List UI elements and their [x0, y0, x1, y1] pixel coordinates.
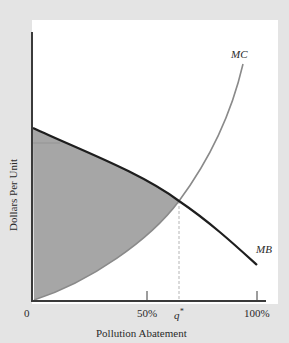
mc-curve-label: MC: [231, 48, 248, 60]
y-axis-title: Dollars Per Unit: [7, 159, 19, 231]
net-benefit-shaded-area: [33, 128, 179, 300]
x-tick-label-qstar: q*: [174, 307, 184, 321]
x-tick-label-100: 100%: [244, 307, 270, 319]
x-tick-label-50: 50%: [137, 307, 157, 319]
x-axis-title: Pollution Abatement: [96, 327, 187, 339]
x-tick-label-0: 0: [24, 307, 30, 319]
mb-curve-label: MB: [256, 243, 272, 255]
